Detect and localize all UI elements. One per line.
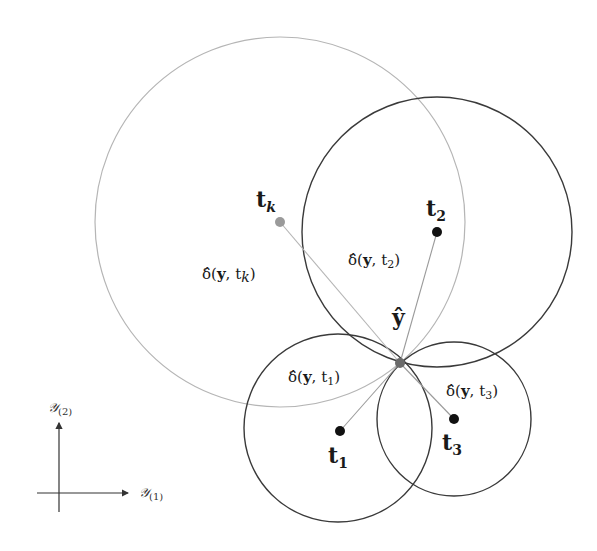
point-tk — [275, 217, 285, 227]
distance-label-tk: δ̂(y, tk) — [202, 265, 256, 285]
x-axis-label: 𝒴(1) — [139, 485, 163, 502]
label-t2: t2 — [426, 195, 446, 224]
point-t2 — [432, 227, 442, 237]
diagram-canvas: tk t2 t1 t3 ŷ δ̂(y, tk) δ̂(y, t2) δ̂(y, … — [0, 0, 597, 551]
y-axis-label: 𝒴(2) — [48, 400, 72, 417]
point-t3 — [449, 414, 459, 424]
point-yhat — [395, 358, 405, 368]
distance-label-t3: δ̂(y, t3) — [446, 382, 498, 402]
line-yhat-tk — [280, 222, 400, 363]
axes-indicator: 𝒴(1) 𝒴(2) — [37, 400, 163, 512]
label-tk: tk — [256, 186, 276, 215]
distance-label-t2: δ̂(y, t2) — [348, 251, 400, 271]
label-yhat: ŷ — [391, 304, 406, 330]
label-t3: t3 — [442, 429, 462, 458]
distance-label-t1: δ̂(y, t1) — [288, 368, 340, 388]
label-t1: t1 — [328, 442, 348, 471]
point-t1 — [335, 426, 345, 436]
line-yhat-t1 — [340, 363, 400, 431]
line-yhat-t2 — [400, 232, 437, 363]
